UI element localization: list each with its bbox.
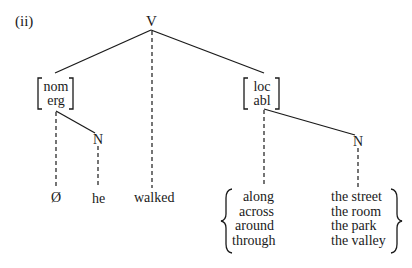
edge-v-to-right-case	[151, 30, 264, 73]
right-noun-node: N	[353, 134, 363, 149]
noun-phrase-item: the room	[331, 205, 393, 220]
noun-phrase-item: the street	[331, 190, 393, 205]
left-curly-brace	[221, 189, 232, 253]
noun-phrase-item: the park	[331, 219, 393, 234]
preposition-list: along across around through	[232, 190, 274, 248]
case-grammar-tree-diagram: (ii) V nom erg loc abl N N Ø he walked a…	[0, 0, 412, 268]
preposition-item: through	[232, 234, 274, 249]
edge-v-to-left-case	[55, 30, 151, 73]
preposition-item: around	[232, 219, 274, 234]
noun-phrase-item: the valley	[331, 234, 393, 249]
preposition-item: along	[232, 190, 274, 205]
preposition-item: across	[232, 205, 274, 220]
edge-left-case-to-n	[56, 111, 95, 133]
example-label: (ii)	[15, 14, 33, 29]
left-noun-node: N	[93, 132, 103, 147]
word-he: he	[92, 191, 105, 206]
right-case-feature-abl: abl	[247, 93, 277, 108]
null-case-marker: Ø	[51, 190, 61, 205]
noun-phrase-list: the street the room the park the valley	[331, 190, 393, 248]
left-case-feature-erg: erg	[41, 93, 71, 108]
root-node-v: V	[146, 14, 157, 29]
right-case-feature-loc: loc	[247, 79, 277, 94]
word-walked: walked	[134, 190, 174, 205]
left-case-feature-nom: nom	[41, 79, 71, 94]
edge-right-case-to-n	[264, 109, 355, 135]
